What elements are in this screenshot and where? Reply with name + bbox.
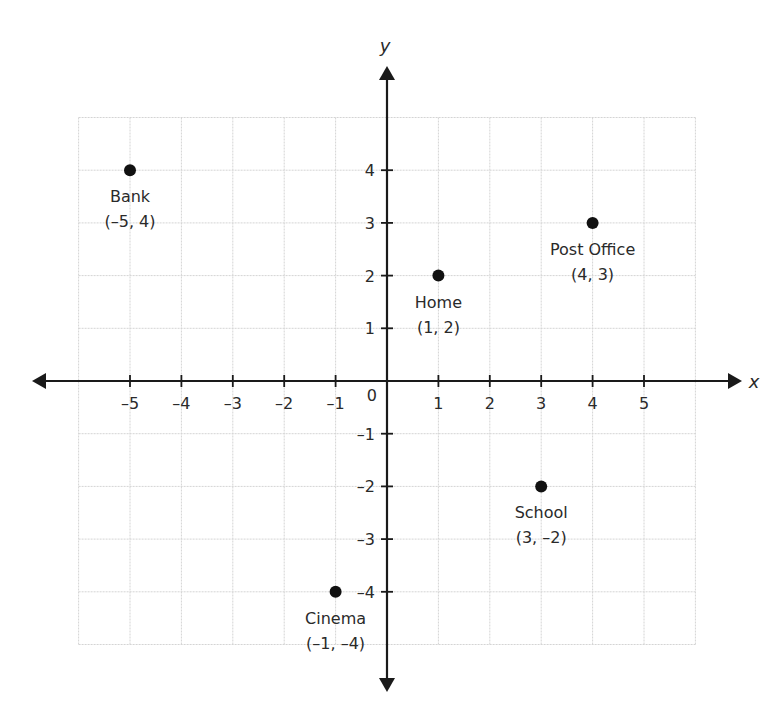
coordinate-plane: xy –5–4–3–2–112345–4–3–2–112340 Bank(–5,… — [0, 0, 784, 714]
y-tick-label: –4 — [357, 583, 375, 602]
point-name: Cinema — [305, 609, 366, 628]
point-home: Home(1, 2) — [415, 270, 462, 337]
x-tick-label: –5 — [121, 394, 139, 413]
y-tick-label: 1 — [365, 319, 375, 338]
point-coordinates: (1, 2) — [417, 318, 460, 337]
point-coordinates: (4, 3) — [571, 265, 614, 284]
y-tick-label: –2 — [357, 477, 375, 496]
y-axis-label: y — [379, 35, 391, 56]
point-coordinates: (–5, 4) — [104, 212, 155, 231]
point-school: School(3, –2) — [515, 480, 568, 547]
point-marker-icon — [432, 270, 444, 282]
x-tick-label: 3 — [536, 394, 546, 413]
x-axis-label: x — [748, 371, 760, 392]
point-coordinates: (3, –2) — [516, 528, 567, 547]
point-post-office: Post Office(4, 3) — [550, 217, 635, 284]
x-tick-label: 4 — [588, 394, 598, 413]
point-name: Bank — [110, 187, 151, 206]
point-name: Post Office — [550, 240, 635, 259]
point-name: Home — [415, 293, 462, 312]
point-marker-icon — [124, 164, 136, 176]
x-tick-label: 1 — [433, 394, 443, 413]
point-marker-icon — [535, 480, 547, 492]
y-axis-arrow-up-icon — [379, 66, 395, 80]
y-tick-label: –3 — [357, 530, 375, 549]
point-marker-icon — [330, 586, 342, 598]
x-axis-arrow-right-icon — [728, 373, 742, 389]
point-coordinates: (–1, –4) — [306, 634, 365, 653]
axes: xy — [32, 35, 760, 692]
x-tick-label: 2 — [485, 394, 495, 413]
y-tick-label: 4 — [365, 161, 375, 180]
y-tick-label: 2 — [365, 267, 375, 286]
point-name: School — [515, 503, 568, 522]
x-tick-label: –2 — [275, 394, 293, 413]
point-bank: Bank(–5, 4) — [104, 164, 155, 231]
x-tick-label: 5 — [639, 394, 649, 413]
origin-label: 0 — [367, 386, 377, 405]
point-marker-icon — [587, 217, 599, 229]
x-tick-label: –4 — [172, 394, 190, 413]
x-axis-arrow-left-icon — [32, 373, 46, 389]
y-tick-label: 3 — [365, 214, 375, 233]
y-tick-label: –1 — [357, 425, 375, 444]
y-axis-arrow-down-icon — [379, 678, 395, 692]
x-tick-label: –3 — [224, 394, 242, 413]
x-tick-label: –1 — [327, 394, 345, 413]
